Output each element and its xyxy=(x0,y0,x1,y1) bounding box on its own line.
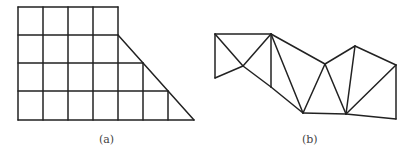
caption-a: (a) xyxy=(99,133,114,146)
caption-b: (b) xyxy=(302,133,318,146)
square-grid-mesh xyxy=(18,7,194,120)
figure-a-mesh xyxy=(0,0,412,157)
triangular-mesh xyxy=(215,34,396,119)
